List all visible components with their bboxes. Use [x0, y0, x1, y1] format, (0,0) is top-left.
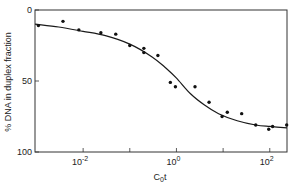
data-point	[220, 115, 223, 118]
data-point	[156, 54, 159, 57]
data-point	[207, 101, 210, 104]
data-point	[267, 128, 270, 131]
data-point	[114, 32, 117, 35]
data-point	[193, 85, 196, 88]
data-point	[128, 44, 131, 47]
chart: 10-2100102 050100 C0t % DNA in duplex fr…	[0, 0, 294, 188]
data-point	[285, 123, 288, 126]
data-point	[142, 47, 145, 50]
data-point	[226, 111, 229, 114]
data-point	[240, 112, 243, 115]
data-point	[99, 31, 102, 34]
fit-curve	[35, 24, 287, 128]
data-point	[142, 51, 145, 54]
x-tick-label: 10-2	[72, 155, 88, 167]
data-point	[254, 123, 257, 126]
data-point	[174, 85, 177, 88]
x-tick-label: 100	[166, 155, 180, 167]
x-axis-label: C0t	[154, 172, 167, 183]
data-point	[37, 24, 40, 27]
data-points	[37, 20, 289, 131]
y-tick-label: 50	[22, 76, 32, 86]
data-point	[169, 81, 172, 84]
y-tick-label: 100	[17, 147, 32, 157]
data-point	[77, 28, 80, 31]
data-point	[271, 125, 274, 128]
plot-frame	[35, 10, 287, 152]
x-tick-label: 102	[260, 155, 274, 167]
y-axis-ticks: 050100	[17, 5, 39, 157]
y-axis-label: % DNA in duplex fraction	[3, 32, 13, 132]
x-axis-ticks: 10-2100102	[72, 148, 274, 167]
y-tick-label: 0	[27, 5, 32, 15]
data-point	[61, 20, 64, 23]
